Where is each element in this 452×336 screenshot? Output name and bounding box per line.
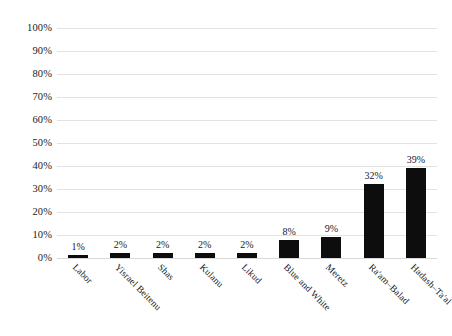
y-axis-tick-label: 30%: [0, 184, 52, 195]
x-axis-tick-label: Labor: [71, 262, 95, 286]
y-axis-tick-label: 80%: [0, 69, 52, 80]
plot-area: 1%2%2%2%2%8%9%32%39%: [57, 28, 437, 258]
y-axis-tick-label: 20%: [0, 207, 52, 218]
x-axis-tick: Blue and White: [268, 258, 310, 336]
x-axis-tick: Kulanu: [184, 258, 226, 336]
bar: [406, 168, 426, 258]
bar: [279, 240, 299, 258]
y-axis-tick-label: 100%: [0, 23, 52, 34]
bar: [364, 184, 384, 258]
bar-group: 2%: [184, 28, 226, 258]
x-axis-tick: Labor: [57, 258, 99, 336]
y-axis-tick-label: 60%: [0, 115, 52, 126]
bar: [321, 237, 341, 258]
y-axis-tick-label: 50%: [0, 138, 52, 149]
y-axis-tick-label: 40%: [0, 161, 52, 172]
bar-value-label: 8%: [268, 227, 310, 237]
y-axis-tick-label: 90%: [0, 46, 52, 57]
y-axis-tick-label: 70%: [0, 92, 52, 103]
x-axis-tick: Hadash–Ta'al: [395, 258, 437, 336]
bar-group: 32%: [353, 28, 395, 258]
x-axis: LaborYisrael BeitenuShasKulanuLikudBlue …: [57, 258, 437, 336]
x-axis-tick-label: Likud: [240, 262, 264, 286]
x-axis-tick-label: Hadash–Ta'al: [409, 262, 452, 307]
bar-value-label: 9%: [310, 224, 352, 234]
bar-group: 39%: [395, 28, 437, 258]
bar-value-label: 2%: [226, 240, 268, 250]
x-axis-tick: Ra'am–Balad: [353, 258, 395, 336]
x-axis-tick: Meretz: [310, 258, 352, 336]
bar-value-label: 2%: [141, 240, 183, 250]
x-axis-tick: Shas: [141, 258, 183, 336]
x-axis-tick: Yisrael Beitenu: [99, 258, 141, 336]
bar-group: 1%: [57, 28, 99, 258]
bar-value-label: 2%: [184, 240, 226, 250]
bar-value-label: 1%: [57, 242, 99, 252]
bar-group: 2%: [141, 28, 183, 258]
bar-value-label: 39%: [395, 155, 437, 165]
bar-group: 2%: [99, 28, 141, 258]
y-axis-tick-label: 0%: [0, 253, 52, 264]
bar-value-label: 2%: [99, 240, 141, 250]
bar-chart: 100%90%80%70%60%50%40%30%20%10%0% 1%2%2%…: [0, 0, 452, 336]
bar-group: 2%: [226, 28, 268, 258]
y-axis-tick-label: 10%: [0, 230, 52, 241]
x-axis-tick: Likud: [226, 258, 268, 336]
bar-group: 9%: [310, 28, 352, 258]
x-axis-tick-label: Shas: [155, 262, 175, 282]
x-axis-tick-label: Meretz: [324, 262, 351, 289]
bar-group: 8%: [268, 28, 310, 258]
bar-value-label: 32%: [353, 171, 395, 181]
x-axis-tick-label: Kulanu: [198, 262, 225, 289]
